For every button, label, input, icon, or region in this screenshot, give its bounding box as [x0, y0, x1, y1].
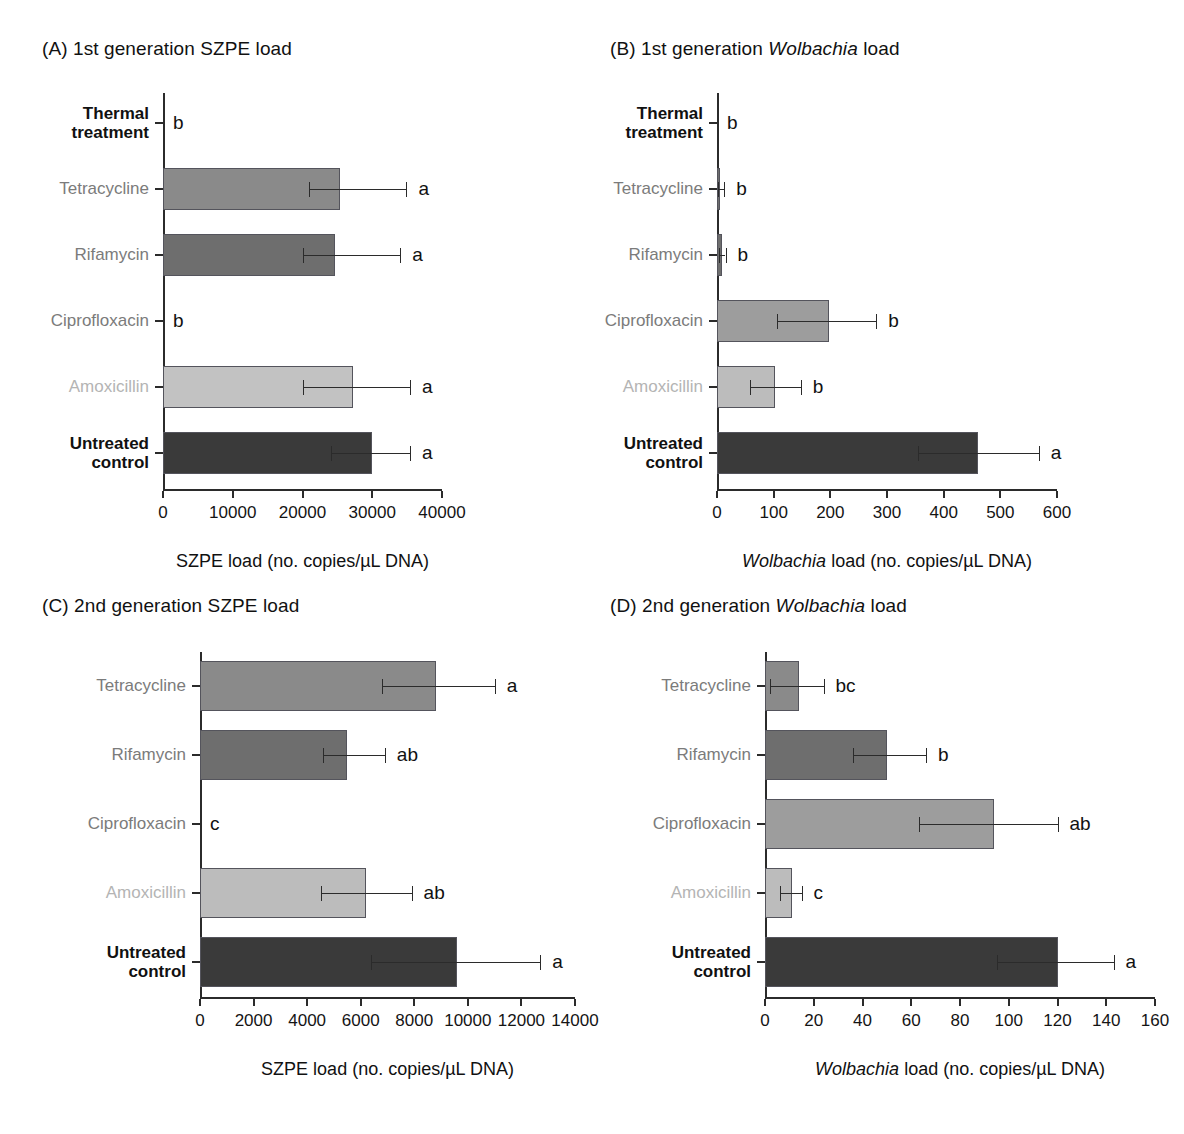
category-label-line: Amoxicillin [69, 377, 149, 396]
y-axis-tick [709, 452, 717, 454]
x-axis-tick [306, 999, 308, 1006]
significance-letter: a [422, 376, 433, 398]
x-axis-tick [829, 491, 831, 498]
x-axis-tick-label: 10000 [444, 1011, 491, 1031]
panel-d-title: (D) 2nd generation Wolbachia load [610, 595, 907, 617]
y-axis-tick [155, 320, 163, 322]
error-bar-line [309, 189, 407, 190]
error-bar-cap [726, 248, 727, 263]
x-axis-tick-label: 30000 [349, 503, 396, 523]
x-axis-tick-label: 300 [873, 503, 901, 523]
error-bar-line [371, 962, 540, 963]
error-bar-line [331, 453, 410, 454]
x-axis-tick [253, 999, 255, 1006]
panel-b-title-italic: Wolbachia [768, 38, 858, 59]
significance-letter: ab [1070, 813, 1091, 835]
panel-a-title: (A) 1st generation SZPE load [42, 38, 292, 60]
category-label: Rifamycin [628, 245, 703, 264]
significance-letter: b [727, 112, 738, 134]
x-axis-tick [413, 999, 415, 1006]
category-label-line: Amoxicillin [623, 377, 703, 396]
y-axis-tick [155, 188, 163, 190]
x-axis-tick-label: 100 [995, 1011, 1023, 1031]
error-bar-line [321, 893, 412, 894]
category-label-line: control [70, 453, 149, 472]
panel-b: (B) 1st generation Wolbachia load 010020… [592, 0, 1184, 567]
category-label-line: Tetracycline [96, 676, 186, 695]
significance-letter: b [736, 178, 747, 200]
error-bar-cap [382, 679, 383, 694]
category-label-line: Untreated [107, 943, 186, 962]
significance-letter: b [173, 310, 184, 332]
category-label-line: Amoxicillin [671, 883, 751, 902]
y-axis-tick [709, 122, 717, 124]
x-axis-tick [1154, 999, 1156, 1006]
significance-letter: b [173, 112, 184, 134]
error-bar-cap [853, 748, 854, 763]
panel-b-title: (B) 1st generation Wolbachia load [610, 38, 900, 60]
significance-letter: a [552, 951, 563, 973]
category-label: Amoxicillin [69, 377, 149, 396]
significance-letter: a [422, 442, 433, 464]
category-label-line: treatment [626, 123, 703, 142]
x-axis-tick-label: 20000 [279, 503, 326, 523]
category-label-line: Untreated [672, 943, 751, 962]
x-axis-tick-label: 100 [759, 503, 787, 523]
error-bar-cap [919, 817, 920, 832]
error-bar-line [382, 686, 495, 687]
y-axis-tick [192, 892, 200, 894]
significance-letter: a [418, 178, 429, 200]
error-bar-line [919, 824, 1058, 825]
y-axis-tick [155, 452, 163, 454]
y-axis-tick [155, 254, 163, 256]
x-axis-tick [232, 491, 234, 498]
significance-letter: ab [424, 882, 445, 904]
category-label-line: Rifamycin [676, 745, 751, 764]
significance-letter: b [813, 376, 824, 398]
significance-letter: bc [836, 675, 856, 697]
y-axis-tick [757, 754, 765, 756]
y-axis-tick [757, 961, 765, 963]
significance-letter: b [888, 310, 899, 332]
error-bar-line [719, 255, 726, 256]
x-axis-tick-label: 160 [1141, 1011, 1169, 1031]
error-bar-line [777, 321, 877, 322]
category-label: Untreatedcontrol [70, 434, 149, 472]
panel-c: (C) 2nd generation SZPE load 02000400060… [0, 567, 592, 1134]
error-bar-cap [718, 182, 719, 197]
significance-letter: b [938, 744, 949, 766]
error-bar-line [303, 387, 410, 388]
category-label-line: Untreated [70, 434, 149, 453]
x-axis-tick-label: 2000 [235, 1011, 273, 1031]
x-axis-tick [764, 999, 766, 1006]
category-label-line: Ciprofloxacin [51, 311, 149, 330]
x-axis-tick-label: 400 [929, 503, 957, 523]
x-axis-title-rest: load (no. copies/µL DNA) [899, 1059, 1105, 1079]
x-axis-tick [371, 491, 373, 498]
y-axis-tick [192, 961, 200, 963]
error-bar-cap [926, 748, 927, 763]
category-label: Untreatedcontrol [107, 943, 186, 981]
y-axis-tick [192, 685, 200, 687]
significance-letter: a [1051, 442, 1062, 464]
panel-a-title-text: (A) 1st generation SZPE load [42, 38, 292, 59]
x-axis-title: SZPE load (no. copies/µL DNA) [261, 1059, 514, 1080]
error-bar-cap [540, 955, 541, 970]
error-bar-cap [412, 886, 413, 901]
panel-b-title-prefix: (B) 1st generation [610, 38, 768, 59]
category-label: Amoxicillin [623, 377, 703, 396]
error-bar-line [303, 255, 401, 256]
error-bar-cap [385, 748, 386, 763]
y-axis-tick [155, 122, 163, 124]
category-label-line: Rifamycin [74, 245, 149, 264]
panel-b-plot: 0100200300400500600Wolbachia load (no. c… [717, 93, 1057, 489]
category-label-line: control [624, 453, 703, 472]
y-axis-line [163, 93, 165, 489]
category-label-line: treatment [72, 123, 149, 142]
error-bar-cap [801, 380, 802, 395]
x-axis-tick [813, 999, 815, 1006]
error-bar-cap [918, 446, 919, 461]
y-axis-tick [757, 685, 765, 687]
x-axis-tick [1105, 999, 1107, 1006]
category-label: Ciprofloxacin [605, 311, 703, 330]
